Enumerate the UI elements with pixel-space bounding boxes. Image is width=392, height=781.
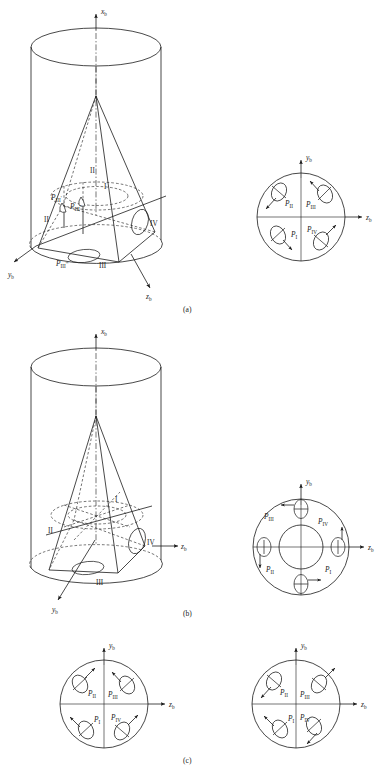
axis-label-yb-b-circle: yb: [305, 477, 312, 487]
cone-PI-a: [267, 223, 292, 250]
label-PIV-c-left: PIV: [110, 713, 121, 723]
axis-label-xb-b: xb: [100, 327, 107, 337]
label-PI-a: PI: [290, 230, 298, 240]
panel-a-3d-cylinder: xb yb zb I II III IV II PIII' PIII'' PII…: [7, 7, 166, 302]
panel-caption-c: (c): [183, 756, 192, 765]
cone-PIII-c-right: [308, 668, 335, 696]
label-PI-c-left: PI: [93, 715, 101, 725]
label-PII-b: PII: [265, 565, 274, 575]
cone-PI-c-left: [70, 717, 97, 742]
axis-label-zb-c-right: zb: [360, 700, 367, 710]
roman-label-IV-a: IV: [150, 220, 158, 228]
roman-label-II-apex-a: II: [90, 167, 95, 175]
technical-figure: xb yb zb I II III IV II PIII' PIII'' PII…: [0, 0, 392, 781]
panel-caption-b: (b): [183, 609, 192, 618]
axis-label-zb-b-circle: zb: [367, 543, 374, 553]
panel-a-circle-diagram: yb zb PII PIII PI: [257, 153, 372, 261]
panel-c-circle-right: yb zb PII PIII PI: [252, 641, 367, 748]
label-PIII-a: PIII: [305, 200, 316, 210]
axis-label-xb-a: xb: [100, 7, 107, 17]
axis-label-zb-a: zb: [145, 292, 152, 302]
axis-label-zb-b: zb: [180, 542, 187, 552]
cone-PII-b: [257, 538, 271, 569]
label-p3-prime-a: PIII': [50, 193, 62, 203]
axis-label-zb-c-left: zb: [168, 700, 175, 710]
label-p3-dprime-a: PIII'': [69, 202, 82, 212]
roman-label-IV-b: IV: [147, 539, 155, 547]
label-PIII-c-right: PIII: [299, 690, 310, 700]
label-PIV-a: PIV: [306, 225, 317, 235]
label-PIII-c-left: PIII: [107, 690, 118, 700]
roman-label-III-b: III: [96, 579, 104, 587]
cone-PI-c-right: [264, 716, 291, 741]
label-PII-c-right: PII: [279, 688, 288, 698]
panel-b-3d-cylinder: xb zb yb I II III IV: [30, 327, 187, 615]
label-PIII-b: PIII: [263, 512, 274, 522]
panel-c-circle-left: yb zb PII PIII PI: [60, 641, 175, 748]
label-PI-c-right: PI: [287, 714, 295, 724]
axis-label-yb-c-right: yb: [300, 641, 307, 651]
axis-label-yb-a: yb: [7, 270, 14, 280]
cone-PIII-b: [281, 500, 308, 519]
cone-PIV-b: [331, 527, 345, 557]
roman-label-II-b: II: [48, 527, 53, 535]
label-PIV-b: PIV: [317, 517, 328, 527]
axis-label-yb-a-circle: yb: [305, 153, 312, 163]
cone-PIII-a: [310, 181, 336, 206]
label-PIV-c-right: PIV: [299, 713, 310, 723]
cone-PI-b: [294, 575, 321, 594]
panel-b-circle-diagram: yb zb PIII PIV PII: [253, 477, 374, 595]
label-PII-c-left: PII: [87, 689, 96, 699]
axis-label-yb-c-left: yb: [108, 641, 115, 651]
label-PI-b: PI: [324, 565, 332, 575]
panel-caption-a: (a): [183, 305, 192, 314]
roman-label-III-a: III: [99, 262, 107, 270]
roman-label-II-a: II: [44, 216, 49, 224]
axis-label-zb-a-circle: zb: [365, 213, 372, 223]
label-PII-a: PII: [284, 199, 293, 209]
roman-label-I-b: I: [115, 496, 118, 504]
axis-label-yb-b: yb: [51, 605, 58, 615]
